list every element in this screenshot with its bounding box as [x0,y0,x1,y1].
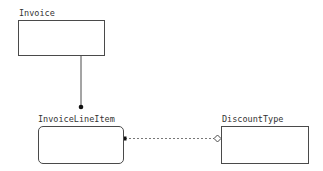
node-invoice-line-item[interactable] [38,126,124,164]
node-label-invoice-line-item: InvoiceLineItem [38,114,115,124]
node-discount-type[interactable] [221,126,309,164]
hollow-diamond-endpoint-icon [214,135,221,142]
node-label-invoice: Invoice [19,8,55,18]
node-label-discount-type: DiscountType [222,114,283,124]
node-invoice[interactable] [18,20,105,56]
filled-circle-endpoint-icon [79,105,84,110]
